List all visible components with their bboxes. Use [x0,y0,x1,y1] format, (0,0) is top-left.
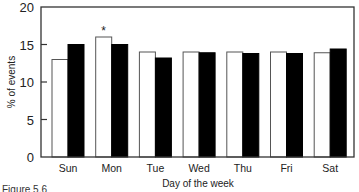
x-tick-label: Thu [234,162,252,174]
y-axis-label: % of events [6,56,17,108]
x-tick-label: Fri [280,162,292,174]
y-tick-label: 5 [27,113,34,128]
y-tick-label: 15 [20,38,34,53]
y-tick-label: 20 [20,0,34,15]
x-tick-label: Sun [59,162,78,174]
bar-sat-white [314,53,330,157]
bar-fri-black [287,54,303,158]
significance-marker: * [101,24,106,38]
bar-thu-white [227,52,243,157]
bar-tue-white [139,52,155,157]
bar-mon-white [96,37,112,157]
bar-sun-black [68,45,84,158]
bar-chart: 05101520 * SunMonTueWedThuFriSat % of ev… [0,0,359,192]
x-tick-label: Wed [188,162,210,174]
bar-mon-black [112,45,128,158]
x-tick-label: Tue [147,162,165,174]
bar-wed-black [199,53,215,157]
bar-fri-white [271,52,287,157]
y-tick-label: 0 [27,150,34,165]
bar-wed-white [183,52,199,157]
bars [52,37,346,157]
x-tick-label: Sat [322,162,338,174]
bar-thu-black [243,54,259,158]
y-tick-label: 10 [20,75,34,90]
bar-sat-black [330,49,346,157]
x-axis-label: Day of the week [162,178,235,189]
x-axis-labels: SunMonTueWedThuFriSat [59,162,339,174]
bar-tue-black [155,58,171,157]
y-axis-ticks: 05101520 [20,0,47,165]
x-tick-label: Mon [101,162,122,174]
bar-sun-white [52,60,68,158]
figure-caption: Figure 5.6 [2,184,47,192]
annotations: * [101,24,106,38]
